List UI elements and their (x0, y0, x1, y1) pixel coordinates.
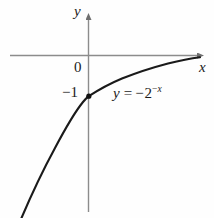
equation-exponent: −x (152, 84, 162, 94)
x-axis-label: x (199, 60, 206, 75)
equation-operator: = (124, 85, 132, 101)
equation-lhs: y (113, 85, 120, 101)
equation-base: 2 (145, 85, 153, 101)
graph-figure: y x 0 −1 y=−2−x (0, 0, 214, 218)
graph-canvas (0, 0, 214, 218)
curve-equation-label: y=−2−x (113, 86, 162, 101)
y-axis-label: y (74, 4, 81, 19)
y-intercept-point (86, 94, 91, 99)
origin-tick-label: 0 (74, 60, 82, 75)
equation-sign: − (135, 85, 143, 101)
equation-exponent-variable: x (157, 84, 161, 94)
exponential-curve (22, 57, 201, 218)
y-intercept-tick-label: −1 (62, 85, 78, 100)
